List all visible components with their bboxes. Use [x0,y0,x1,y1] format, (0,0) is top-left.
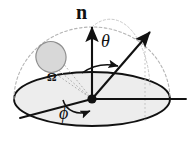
diagram-canvas [0,0,187,141]
origin-point [87,94,96,103]
normal-vector-label: n [76,2,87,22]
theta-angle-label: θ [101,32,110,50]
omega-solid-angle-label: Ω [47,71,57,83]
phi-angle-label: ϕ [59,104,68,122]
solid-angle-diagram: n θ ϕ Ω [0,0,187,141]
